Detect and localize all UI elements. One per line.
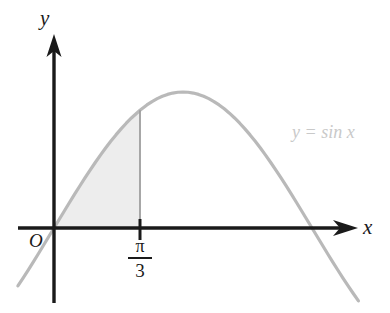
sine-curve-figure: y x O y = sin x π 3: [0, 0, 390, 313]
fraction-denominator: 3: [127, 259, 153, 282]
plot-canvas: [0, 0, 390, 313]
x-axis-label: x: [363, 217, 372, 238]
y-axis-label: y: [40, 8, 49, 29]
origin-label: O: [29, 231, 43, 250]
shaded-region-under-curve: [54, 110, 140, 228]
curve-equation-label: y = sin x: [292, 123, 355, 141]
x-tick-label-pi-over-three: π 3: [127, 237, 153, 282]
fraction-numerator: π: [127, 237, 153, 257]
